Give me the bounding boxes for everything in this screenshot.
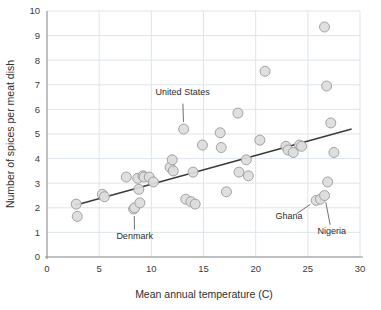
annotation-leader-line (183, 104, 184, 122)
y-axis-title: Number of spices per meat dish (4, 60, 16, 208)
chart-canvas: 012345678910051015202530 United StatesDe… (0, 0, 381, 310)
data-point (71, 199, 81, 209)
annotation-label-nigeria: Nigeria (318, 226, 347, 236)
data-point (168, 166, 178, 176)
gridlines-group (47, 11, 360, 257)
data-point (255, 135, 265, 145)
data-point (320, 191, 330, 201)
data-point (241, 155, 251, 165)
annotation-leader-line (296, 204, 310, 213)
y-tick-label: 8 (35, 55, 40, 66)
y-tick-label: 4 (35, 153, 40, 164)
y-tick-label: 2 (35, 202, 40, 213)
data-point (243, 171, 253, 181)
data-point (190, 199, 200, 209)
y-tick-label: 6 (35, 104, 40, 115)
y-tick-label: 7 (35, 79, 40, 90)
datapoints-group (71, 22, 339, 221)
data-point (260, 66, 270, 76)
regression-trendline (75, 129, 351, 205)
data-point (135, 198, 145, 208)
y-tick-label: 3 (35, 178, 40, 189)
scatter-chart: 012345678910051015202530 United StatesDe… (0, 0, 381, 310)
x-axis-title: Mean annual temperature (C) (135, 288, 273, 300)
trendline-group (75, 129, 351, 205)
y-tick-label: 1 (35, 227, 40, 238)
data-point (326, 118, 336, 128)
data-point (121, 172, 131, 182)
y-tick-label: 0 (35, 251, 40, 262)
axes-group (45, 11, 363, 259)
x-tick-label: 10 (146, 263, 157, 274)
data-point (234, 167, 244, 177)
data-point (233, 108, 243, 118)
x-tick-label: 0 (44, 263, 49, 274)
annotation-label-denmark: Denmark (116, 231, 153, 241)
data-point (329, 147, 339, 157)
data-point (148, 177, 158, 187)
data-point (322, 81, 332, 91)
data-point (167, 155, 177, 165)
data-point (134, 184, 144, 194)
y-tick-label: 10 (29, 5, 40, 16)
data-point (323, 177, 333, 187)
data-point (320, 22, 330, 32)
data-point (197, 140, 207, 150)
data-point (188, 167, 198, 177)
x-tick-label: 25 (303, 263, 314, 274)
y-tick-label: 9 (35, 30, 40, 41)
x-tick-label: 5 (97, 263, 102, 274)
x-tick-label: 30 (355, 263, 366, 274)
annotation-leader-line (326, 202, 330, 224)
data-point (221, 187, 231, 197)
data-point (179, 124, 189, 134)
data-point (297, 141, 307, 151)
data-point (215, 128, 225, 138)
y-tick-label: 5 (35, 128, 40, 139)
data-point (216, 143, 226, 153)
x-tick-label: 15 (198, 263, 209, 274)
x-tick-label: 20 (250, 263, 261, 274)
annotation-label-united-states: United States (156, 87, 211, 97)
data-point (99, 192, 109, 202)
data-point (72, 211, 82, 221)
